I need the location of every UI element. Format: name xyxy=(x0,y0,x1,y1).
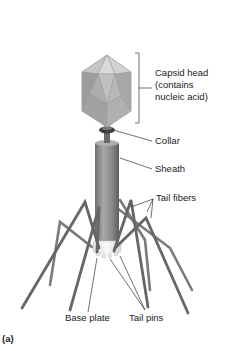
label-capsid-head: Capsid head (contains nucleic acid) xyxy=(155,67,208,103)
label-sheath: Sheath xyxy=(155,163,185,175)
label-tail-pins: Tail pins xyxy=(129,312,163,324)
capsid-head xyxy=(82,55,131,127)
label-tail-fibers: Tail fibers xyxy=(156,192,196,204)
phage-illustration xyxy=(0,0,228,351)
panel-label: (a) xyxy=(2,333,14,344)
label-base-plate: Base plate xyxy=(65,312,110,324)
label-collar: Collar xyxy=(155,135,180,147)
